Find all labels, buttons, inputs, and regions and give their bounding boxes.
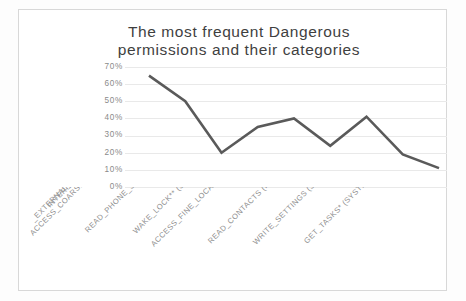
y-tick-label: 50% [79,96,123,106]
chart-title-line-1: The most frequent Dangerous [74,23,404,41]
y-tick-label: 10% [79,165,123,175]
plot-area [125,67,447,187]
figure-page: The most frequent Dangerous permissions … [0,0,466,301]
y-tick-label: 40% [79,113,123,123]
y-axis: 70% 60% 50% 40% 30% 20% 10% 0% [79,60,123,194]
y-tick-label: 30% [79,130,123,140]
y-tick-label: 20% [79,148,123,158]
data-series-line [125,67,447,187]
chart-frame: The most frequent Dangerous permissions … [18,9,447,291]
y-tick-label: 70% [79,62,123,72]
chart-title: The most frequent Dangerous permissions … [74,23,404,58]
chart-title-line-2: permissions and their categories [74,41,404,59]
y-tick-label: 60% [79,79,123,89]
x-axis: INTERNET** (NETWORK) _EXTERNAL_STORAGE**… [19,187,448,291]
x-tick-label: GET_TASKS* (SYSTEM_TOOLS) [302,187,398,245]
